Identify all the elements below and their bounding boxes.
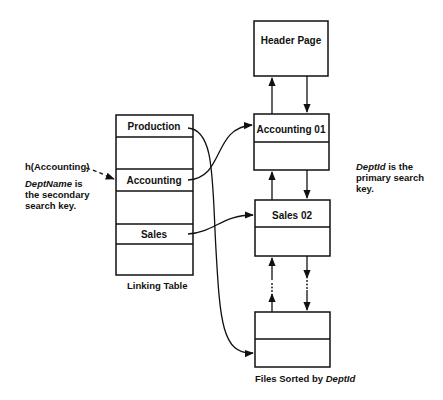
file-page-label: Sales 02 xyxy=(272,210,312,221)
files-sorted-caption: Files Sorted by DeptId xyxy=(255,373,355,384)
secondary-key-term: DeptName xyxy=(25,178,72,189)
file-page-accounting-01: Accounting 01 xyxy=(254,114,329,170)
linking-row-sales: Sales xyxy=(141,229,168,240)
file-page-last xyxy=(255,312,330,367)
pointer-sales-arrow xyxy=(188,215,253,234)
linking-row-accounting: Accounting xyxy=(127,175,182,186)
linking-table: Production Accounting Sales xyxy=(116,115,193,275)
hash-call-label: h(Accounting) xyxy=(25,161,89,172)
linking-table-caption: Linking Table xyxy=(127,280,188,291)
page-chain-arrows xyxy=(272,76,307,312)
header-page-box: Header Page xyxy=(254,21,328,76)
file-page-sales-02: Sales 02 xyxy=(255,200,330,256)
hash-dashed-arrow xyxy=(86,168,114,179)
pointer-production-arrow xyxy=(188,128,253,353)
continuation-dots xyxy=(271,280,308,292)
primary-key-note: DeptId is the primary search key. xyxy=(356,161,424,194)
file-page-label: Accounting 01 xyxy=(257,124,326,135)
primary-key-term: DeptId xyxy=(356,161,386,172)
pointer-accounting-arrow xyxy=(188,125,252,180)
secondary-key-note: DeptName is the secondary search key. xyxy=(25,178,89,211)
linking-row-production: Production xyxy=(128,121,181,132)
header-page-label: Header Page xyxy=(261,35,322,46)
